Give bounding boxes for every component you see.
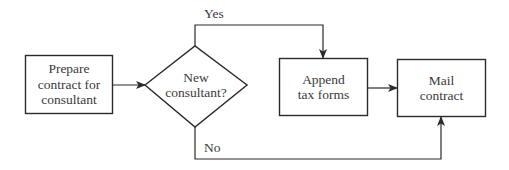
edge-label-yes: Yes	[204, 6, 224, 21]
edge-label-no: No	[204, 140, 221, 155]
label-append-tax-forms: Append tax forms	[279, 58, 368, 116]
flowchart: Prepare contract for consultant New cons…	[0, 0, 509, 170]
label-prepare-contract: Prepare contract for consultant	[25, 55, 113, 114]
label-new-consultant: New consultant?	[150, 62, 242, 108]
label-mail-contract: Mail contract	[397, 59, 486, 117]
edge-decision-to-mail-no	[195, 117, 441, 159]
edge-decision-to-append-yes	[195, 25, 323, 58]
